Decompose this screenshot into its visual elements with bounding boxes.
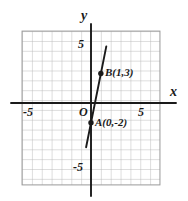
point-b-marker [98, 71, 103, 76]
point-b-label: B(1,3) [105, 67, 133, 78]
y-axis-label: y [81, 9, 87, 23]
y-tick-label-minus5: -5 [73, 161, 83, 173]
x-axis-label: x [170, 85, 177, 99]
graph-canvas [0, 0, 188, 201]
point-a-marker [88, 120, 93, 125]
coordinate-plane-figure: y x 5 -5 -5 5 O B(1,3) A(0,-2) [0, 0, 188, 201]
x-tick-label-5: 5 [138, 106, 144, 118]
origin-label: O [79, 106, 88, 118]
x-tick-label-minus5: -5 [23, 106, 33, 118]
point-a-label: A(0,-2) [95, 117, 127, 128]
y-tick-label-5: 5 [78, 38, 84, 50]
